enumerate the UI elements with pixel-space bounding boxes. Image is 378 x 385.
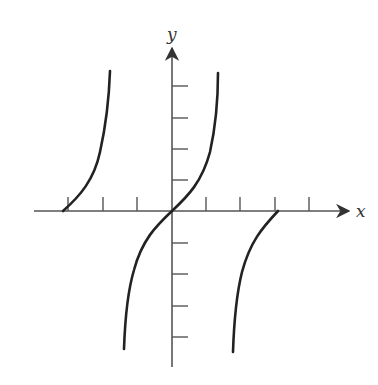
right-branch-curve: [233, 211, 278, 352]
x-ticks: [68, 197, 309, 211]
y-axis-label: y: [166, 24, 177, 44]
left-branch-curve: [63, 71, 110, 211]
graph: y x: [0, 0, 378, 385]
x-axis-label: x: [356, 201, 366, 221]
